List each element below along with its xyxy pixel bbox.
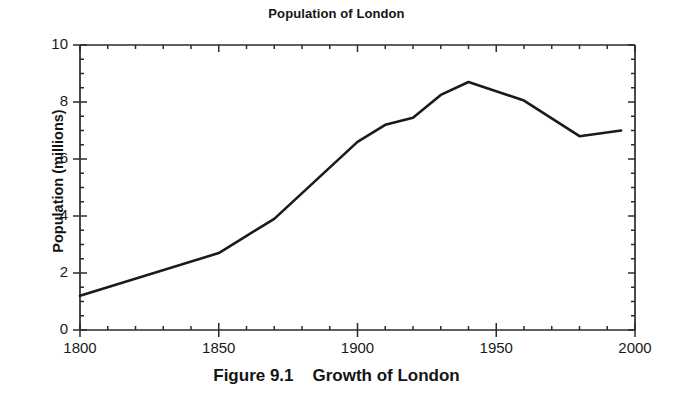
x-tick-label: 1850 bbox=[189, 339, 249, 356]
y-tick-label: 6 bbox=[28, 149, 68, 166]
x-tick-label: 1900 bbox=[328, 339, 388, 356]
figure-panel: Population of London Population (million… bbox=[0, 0, 673, 398]
x-tick-label: 1950 bbox=[466, 339, 526, 356]
y-tick-label: 2 bbox=[28, 263, 68, 280]
x-tick-label: 2000 bbox=[605, 339, 665, 356]
axis-ticks bbox=[73, 45, 635, 337]
data-line-series bbox=[80, 82, 621, 296]
axis-lines bbox=[80, 45, 635, 330]
figure-caption: Figure 9.1 Growth of London bbox=[0, 366, 673, 386]
y-tick-label: 0 bbox=[28, 320, 68, 337]
y-tick-label: 8 bbox=[28, 92, 68, 109]
y-tick-label: 10 bbox=[28, 35, 68, 52]
y-tick-label: 4 bbox=[28, 206, 68, 223]
x-tick-label: 1800 bbox=[50, 339, 110, 356]
